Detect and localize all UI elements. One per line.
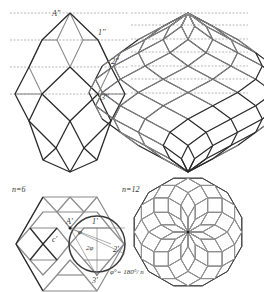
label-A-prime: A' — [66, 218, 73, 226]
label-n12: n=12 — [122, 186, 139, 194]
label-3-double-prime: 3'' — [101, 94, 108, 102]
label-3-prime: 3' — [92, 277, 98, 285]
label-1-prime: 1' — [92, 218, 98, 226]
label-c-prime: c' — [52, 236, 57, 244]
elevation-n6-dark — [15, 13, 125, 172]
label-2-prime: 2' — [113, 246, 119, 254]
plan-n6 — [16, 197, 125, 291]
label-n6: n=6 — [12, 186, 25, 194]
label-two-phi: 2φ — [86, 245, 93, 252]
label-phi: φ — [78, 229, 82, 236]
plan-n12 — [134, 178, 242, 286]
elevation-n12-lattice — [89, 13, 264, 172]
formula-phi: φ°= 180°/ n — [110, 269, 144, 276]
label-A-double-prime: A'' — [52, 10, 60, 18]
zonohedron-figure — [0, 0, 264, 292]
label-2-double-prime: 2'' — [111, 58, 118, 66]
elevation-n6-light — [15, 13, 125, 94]
elevation-n6-dashes — [10, 13, 128, 94]
elevation-n12-dashes — [131, 13, 248, 93]
label-1-double-prime: 1'' — [98, 29, 105, 37]
